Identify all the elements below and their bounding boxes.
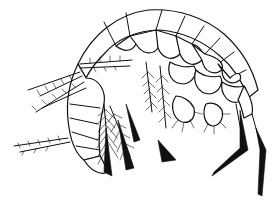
amphipod-drawing (0, 0, 279, 202)
amphipod-illustration (0, 0, 279, 202)
body-segments (78, 10, 258, 118)
